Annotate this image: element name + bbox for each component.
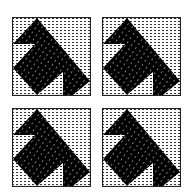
tangram-silhouette-icon: [102, 108, 181, 187]
tangram-panel-bottom-right: [102, 108, 181, 187]
tangram-silhouette-icon: [12, 108, 91, 187]
tangram-silhouette-icon: [102, 17, 181, 96]
tangram-panel-bottom-left: [12, 108, 91, 187]
tangram-silhouette-icon: [12, 17, 91, 96]
tangram-panel-top-left: [12, 17, 91, 96]
tangram-panel-top-right: [102, 17, 181, 96]
